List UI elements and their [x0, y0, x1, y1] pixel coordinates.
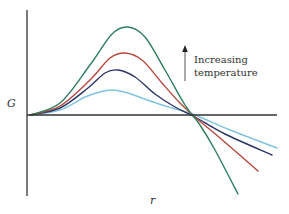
curves [30, 27, 277, 194]
annotation-line1: Increasing [194, 54, 248, 65]
arrow-up-icon [182, 45, 188, 81]
g-vs-r-diagram: G r Increasing temperature [0, 0, 289, 214]
curve-highest-temperature [30, 27, 238, 194]
annotation-line2: temperature [194, 67, 258, 78]
curve-medium-temperature [30, 70, 272, 155]
y-axis-label: G [7, 97, 16, 110]
x-axis-label: r [150, 194, 156, 207]
curve-lowest-temperature [30, 90, 277, 148]
